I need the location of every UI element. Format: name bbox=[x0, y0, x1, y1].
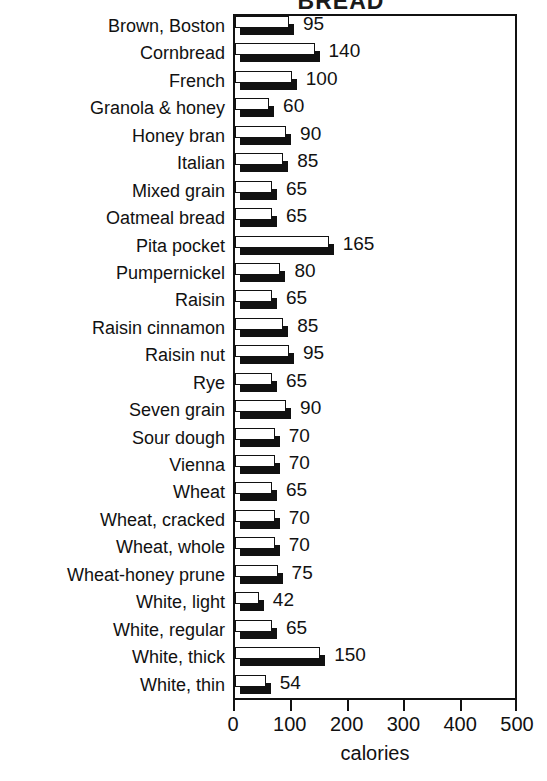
bar-row: Vienna70 bbox=[0, 453, 547, 481]
bar-row: Pita pocket165 bbox=[0, 234, 547, 262]
category-label: Brown, Boston bbox=[108, 15, 225, 37]
bar-row: Wheat-honey prune75 bbox=[0, 563, 547, 591]
x-tick-mark bbox=[233, 700, 235, 711]
bar-value-label: 165 bbox=[343, 234, 375, 254]
x-tick-label: 100 bbox=[273, 712, 306, 736]
x-tick-mark bbox=[347, 700, 349, 711]
bar-front-face bbox=[235, 482, 272, 494]
bar-row: White, thin54 bbox=[0, 673, 547, 701]
x-tick-mark bbox=[460, 700, 462, 711]
bar-front-face bbox=[235, 675, 266, 687]
x-axis-title: calories bbox=[233, 742, 517, 765]
category-label: Mixed grain bbox=[132, 180, 225, 202]
category-label: Raisin bbox=[175, 289, 225, 311]
bar bbox=[235, 318, 289, 342]
bar-front-face bbox=[235, 263, 280, 275]
bar-value-label: 95 bbox=[303, 14, 324, 34]
bar-value-label: 75 bbox=[292, 563, 313, 583]
bar-row: Honey bran90 bbox=[0, 124, 547, 152]
bar-value-label: 60 bbox=[283, 96, 304, 116]
category-label: Wheat bbox=[173, 481, 225, 503]
bar-front-face bbox=[235, 373, 272, 385]
category-label: Pumpernickel bbox=[116, 262, 225, 284]
bar bbox=[235, 592, 265, 616]
bar-row: Rye65 bbox=[0, 371, 547, 399]
bar bbox=[235, 181, 278, 205]
bar bbox=[235, 675, 272, 699]
bar-row: Raisin65 bbox=[0, 288, 547, 316]
bar bbox=[235, 565, 284, 589]
bar bbox=[235, 428, 281, 452]
bar bbox=[235, 510, 281, 534]
bar-row: Seven grain90 bbox=[0, 398, 547, 426]
bar bbox=[235, 482, 278, 506]
bar bbox=[235, 537, 281, 561]
category-label: Cornbread bbox=[140, 42, 225, 64]
chart-title: BREAD bbox=[0, 0, 547, 15]
bar-value-label: 54 bbox=[280, 673, 301, 693]
x-tick-mark bbox=[403, 700, 405, 711]
x-tick-label: 200 bbox=[330, 712, 363, 736]
bar-row: Oatmeal bread65 bbox=[0, 206, 547, 234]
category-label: Honey bran bbox=[132, 125, 225, 147]
bar-row: Pumpernickel80 bbox=[0, 261, 547, 289]
category-label: White, light bbox=[136, 591, 225, 613]
category-label: Oatmeal bread bbox=[106, 207, 225, 229]
bar-front-face bbox=[235, 565, 278, 577]
bar-value-label: 95 bbox=[303, 343, 324, 363]
bar-value-label: 65 bbox=[286, 179, 307, 199]
category-label: Granola & honey bbox=[90, 97, 225, 119]
category-label: Wheat-honey prune bbox=[67, 564, 225, 586]
bar bbox=[235, 400, 292, 424]
category-label: White, thick bbox=[132, 646, 225, 668]
category-label: Pita pocket bbox=[136, 235, 225, 257]
bar-front-face bbox=[235, 537, 275, 549]
x-tick-mark bbox=[515, 700, 517, 711]
category-label: Rye bbox=[193, 372, 225, 394]
category-label: Wheat, cracked bbox=[100, 509, 225, 531]
bar-row: Brown, Boston95 bbox=[0, 14, 547, 42]
bar-front-face bbox=[235, 208, 272, 220]
bar-row: French100 bbox=[0, 69, 547, 97]
x-axis: 0100200300400500 bbox=[233, 700, 517, 740]
bar-value-label: 70 bbox=[289, 453, 310, 473]
bar-row: White, thick150 bbox=[0, 645, 547, 673]
bar-value-label: 70 bbox=[289, 535, 310, 555]
bar bbox=[235, 98, 275, 122]
bar-value-label: 140 bbox=[329, 41, 361, 61]
bar bbox=[235, 126, 292, 150]
bar-value-label: 65 bbox=[286, 371, 307, 391]
bar-front-face bbox=[235, 647, 320, 659]
bar-front-face bbox=[235, 620, 272, 632]
bar-row: Wheat, cracked70 bbox=[0, 508, 547, 536]
bar-row: Italian85 bbox=[0, 151, 547, 179]
category-label: Raisin cinnamon bbox=[92, 317, 225, 339]
bar-front-face bbox=[235, 592, 259, 604]
bar-front-face bbox=[235, 318, 283, 330]
bar-value-label: 65 bbox=[286, 206, 307, 226]
bar-value-label: 65 bbox=[286, 288, 307, 308]
bar bbox=[235, 263, 286, 287]
bar-front-face bbox=[235, 126, 286, 138]
bar-front-face bbox=[235, 43, 315, 55]
bar bbox=[235, 647, 326, 671]
category-label: Sour dough bbox=[132, 427, 225, 449]
bar-front-face bbox=[235, 16, 289, 28]
bar-front-face bbox=[235, 153, 283, 165]
bar-front-face bbox=[235, 455, 275, 467]
bar bbox=[235, 345, 295, 369]
bar-value-label: 42 bbox=[273, 590, 294, 610]
bar-row: Granola & honey60 bbox=[0, 96, 547, 124]
bar-row: Raisin nut95 bbox=[0, 343, 547, 371]
bar-front-face bbox=[235, 345, 289, 357]
bar-row: Wheat65 bbox=[0, 480, 547, 508]
bar bbox=[235, 71, 298, 95]
bar-front-face bbox=[235, 71, 292, 83]
bar-value-label: 90 bbox=[300, 398, 321, 418]
bar-value-label: 90 bbox=[300, 124, 321, 144]
category-label: White, regular bbox=[113, 619, 225, 641]
bar-row: White, regular65 bbox=[0, 618, 547, 646]
bar-front-face bbox=[235, 181, 272, 193]
bar-row: Raisin cinnamon85 bbox=[0, 316, 547, 344]
bar-value-label: 65 bbox=[286, 480, 307, 500]
